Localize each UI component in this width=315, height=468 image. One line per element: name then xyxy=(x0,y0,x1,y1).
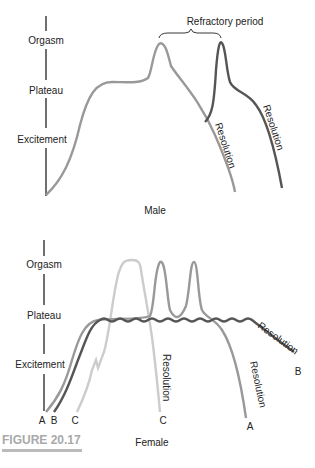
female-end-c: C xyxy=(159,415,166,426)
female-resolution-label-c: Resolution xyxy=(161,354,172,401)
sexual-response-cycle-diagram: Orgasm Plateau Excitement Refractory per… xyxy=(0,0,315,468)
female-title: Female xyxy=(135,437,169,448)
female-axis-plateau: Plateau xyxy=(27,310,61,321)
refractory-brace xyxy=(159,29,221,38)
female-axis-orgasm: Orgasm xyxy=(26,259,62,270)
female-curve-a xyxy=(46,262,246,418)
female-start-a: A xyxy=(39,415,46,426)
male-resolution-label-1: Resolution xyxy=(213,121,238,169)
female-resolution-label-a: Resolution xyxy=(248,360,269,409)
female-start-c: C xyxy=(71,415,78,426)
female-resolution-label-b: Resolution xyxy=(256,320,301,357)
female-end-a: A xyxy=(247,421,254,432)
male-resolution-label-2: Resolution xyxy=(261,103,286,151)
male-title: Male xyxy=(144,205,166,216)
male-axis-orgasm: Orgasm xyxy=(28,35,64,46)
figure-caption: FIGURE 20.17 xyxy=(2,433,81,447)
caption-rule xyxy=(2,449,82,452)
male-axis-plateau: Plateau xyxy=(29,85,63,96)
female-curve-c xyxy=(77,260,160,412)
female-end-b: B xyxy=(295,366,302,377)
female-axis-excitement: Excitement xyxy=(15,359,65,370)
male-axis-excitement: Excitement xyxy=(17,134,67,145)
refractory-period-label: Refractory period xyxy=(187,16,264,27)
female-start-b: B xyxy=(51,415,58,426)
